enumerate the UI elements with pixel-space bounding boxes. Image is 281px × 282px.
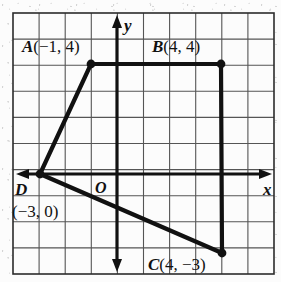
point-label-d-coords: (−3, 0) xyxy=(12,203,58,220)
edge-b-c xyxy=(221,64,222,253)
y-axis-label: y xyxy=(124,17,132,34)
point-label-b: B(4, 4) xyxy=(152,38,200,55)
point-label-d-name: D xyxy=(15,180,27,199)
point-label-c-coords: (4, −3) xyxy=(159,255,205,274)
point-label-a: A(−1, 4) xyxy=(22,38,80,55)
vertex-dot-a xyxy=(87,60,96,69)
origin-label: O xyxy=(95,180,107,196)
point-label-c-name: C xyxy=(148,255,159,274)
vertex-dot-c xyxy=(218,249,227,258)
point-label-d: D xyxy=(15,181,27,198)
vertex-dot-b xyxy=(217,60,226,69)
x-axis-label: x xyxy=(263,181,272,198)
point-label-a-coords: (−1, 4) xyxy=(33,37,79,56)
point-label-b-coords: (4, 4) xyxy=(163,37,200,56)
point-label-b-name: B xyxy=(152,37,163,56)
point-label-c: C(4, −3) xyxy=(148,256,206,273)
vertex-dot-d xyxy=(36,170,45,179)
point-label-a-name: A xyxy=(22,37,33,56)
